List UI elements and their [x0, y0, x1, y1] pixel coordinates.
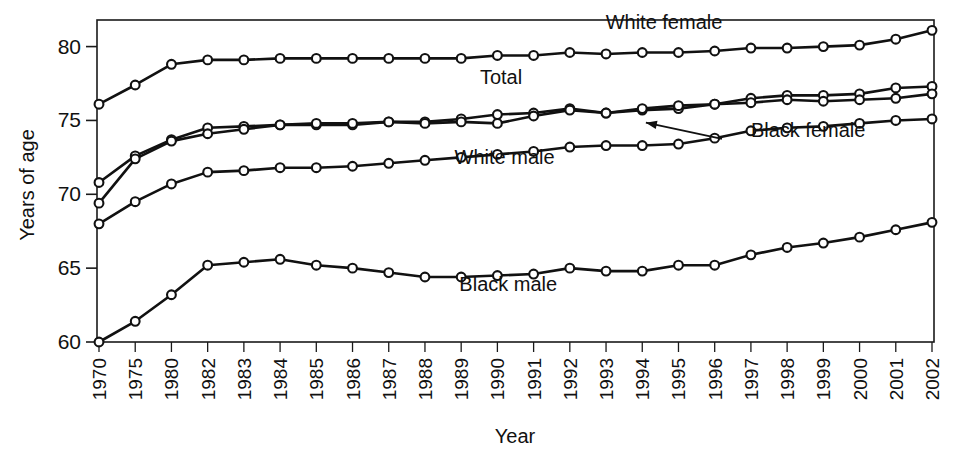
- data-point-marker: [457, 54, 466, 63]
- data-point-marker: [891, 94, 900, 103]
- data-point-marker: [312, 261, 321, 270]
- x-tick-label: 1985: [306, 358, 327, 400]
- data-point-marker: [95, 199, 104, 208]
- data-point-marker: [928, 218, 937, 227]
- data-point-marker: [638, 48, 647, 57]
- data-point-marker: [95, 178, 104, 187]
- x-tick-label: 1996: [705, 358, 726, 400]
- x-tick-label: 1986: [343, 358, 364, 400]
- data-point-marker: [457, 118, 466, 127]
- data-point-marker: [855, 95, 864, 104]
- data-point-marker: [710, 47, 719, 56]
- data-point-marker: [855, 41, 864, 50]
- x-tick-label: 1983: [234, 358, 255, 400]
- y-tick-label: 80: [58, 35, 81, 58]
- data-point-marker: [529, 51, 538, 60]
- data-point-marker: [95, 219, 104, 228]
- data-point-marker: [602, 141, 611, 150]
- data-point-marker: [891, 225, 900, 234]
- data-point-marker: [348, 264, 357, 273]
- data-point-marker: [783, 243, 792, 252]
- data-point-marker: [203, 261, 212, 270]
- data-point-marker: [384, 54, 393, 63]
- x-tick-label: 1989: [451, 358, 472, 400]
- data-point-marker: [131, 81, 140, 90]
- data-point-marker: [167, 290, 176, 299]
- x-tick-label: 1980: [161, 358, 182, 400]
- data-point-marker: [529, 112, 538, 121]
- data-point-marker: [819, 239, 828, 248]
- y-tick-label: 65: [58, 256, 81, 279]
- data-point-marker: [747, 44, 756, 53]
- series-label-white-female: White female: [606, 11, 723, 33]
- data-point-marker: [747, 98, 756, 107]
- data-point-marker: [710, 100, 719, 109]
- data-point-marker: [493, 51, 502, 60]
- x-tick-label: 2000: [850, 358, 871, 400]
- x-tick-label: 1990: [487, 358, 508, 400]
- data-point-marker: [276, 255, 285, 264]
- x-tick-label: 1997: [741, 358, 762, 400]
- data-point-marker: [239, 55, 248, 64]
- data-point-marker: [312, 163, 321, 172]
- data-point-marker: [384, 118, 393, 127]
- x-tick-label: 1988: [415, 358, 436, 400]
- y-tick-label: 75: [58, 108, 81, 131]
- data-point-marker: [710, 261, 719, 270]
- x-tick-label: 1991: [524, 358, 545, 400]
- data-point-marker: [674, 48, 683, 57]
- chart-canvas: 6065707580197019751980198219831984198519…: [0, 0, 961, 454]
- data-point-marker: [167, 60, 176, 69]
- data-point-marker: [348, 54, 357, 63]
- x-tick-label: 2002: [922, 358, 943, 400]
- x-tick-label: 1998: [777, 358, 798, 400]
- data-point-marker: [421, 156, 430, 165]
- data-point-marker: [891, 116, 900, 125]
- y-tick-label: 70: [58, 182, 81, 205]
- data-point-marker: [203, 129, 212, 138]
- series-label-white-male: White male: [455, 146, 555, 168]
- data-point-marker: [819, 97, 828, 106]
- data-point-marker: [421, 273, 430, 282]
- data-point-marker: [312, 119, 321, 128]
- data-point-marker: [131, 197, 140, 206]
- data-point-marker: [565, 143, 574, 152]
- data-point-marker: [674, 140, 683, 149]
- data-point-marker: [276, 54, 285, 63]
- x-tick-label: 1999: [813, 358, 834, 400]
- data-point-marker: [638, 141, 647, 150]
- data-point-marker: [602, 267, 611, 276]
- x-tick-label: 1975: [125, 358, 146, 400]
- data-point-marker: [565, 106, 574, 115]
- data-point-marker: [239, 258, 248, 267]
- data-point-marker: [276, 163, 285, 172]
- data-point-marker: [95, 338, 104, 347]
- x-tick-label: 1995: [668, 358, 689, 400]
- data-point-marker: [384, 159, 393, 168]
- y-tick-label: 60: [58, 330, 81, 353]
- x-tick-label: 1982: [198, 358, 219, 400]
- data-point-marker: [674, 101, 683, 110]
- data-point-marker: [348, 162, 357, 171]
- series-label-black-female: Black female: [751, 119, 866, 141]
- y-axis-title: Years of age: [16, 129, 38, 241]
- data-point-marker: [312, 54, 321, 63]
- data-point-marker: [348, 119, 357, 128]
- data-point-marker: [421, 119, 430, 128]
- data-point-marker: [421, 54, 430, 63]
- data-point-marker: [783, 44, 792, 53]
- data-point-marker: [747, 250, 756, 259]
- data-point-marker: [203, 168, 212, 177]
- data-point-marker: [891, 35, 900, 44]
- data-point-marker: [565, 48, 574, 57]
- data-point-marker: [819, 42, 828, 51]
- data-point-marker: [891, 84, 900, 93]
- data-point-marker: [855, 233, 864, 242]
- data-point-marker: [638, 104, 647, 113]
- data-point-marker: [131, 317, 140, 326]
- x-tick-label: 2001: [886, 358, 907, 400]
- data-point-marker: [602, 50, 611, 59]
- x-tick-label: 1993: [596, 358, 617, 400]
- data-point-marker: [493, 110, 502, 119]
- data-point-marker: [638, 267, 647, 276]
